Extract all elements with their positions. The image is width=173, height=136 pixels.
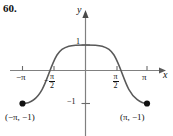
left-endpoint-marker xyxy=(19,100,25,106)
cosine-curve xyxy=(23,45,148,104)
x-tick-label-half-pi: π 2 xyxy=(112,73,119,89)
y-axis-label: y xyxy=(77,4,81,15)
x-axis-ticks xyxy=(23,66,148,71)
x-tick-label-negative-half-pi: − π 2 xyxy=(44,73,55,89)
y-tick-label-negative-one: −1 xyxy=(67,97,76,106)
fraction: π 2 xyxy=(113,73,119,89)
fraction-numerator: π xyxy=(113,73,119,81)
right-endpoint-coordinate-label: (π, −1) xyxy=(120,112,145,122)
fraction-denominator: 2 xyxy=(49,82,55,90)
y-tick-label-one: 1 xyxy=(76,37,80,46)
x-tick-label-negative-pi: −π xyxy=(16,72,26,82)
minus-sign: − xyxy=(44,77,49,85)
y-axis-arrowhead xyxy=(82,10,88,18)
right-endpoint-marker xyxy=(144,100,150,106)
graph-figure: 60. y x −π xyxy=(0,0,173,136)
y-axis xyxy=(82,10,88,136)
left-endpoint-coordinate-label: (−π, −1) xyxy=(5,112,35,122)
x-axis-label: x xyxy=(163,69,167,80)
fraction-denominator: 2 xyxy=(113,82,119,90)
fraction: π 2 xyxy=(49,73,55,89)
x-tick-label-pi: π xyxy=(142,72,147,82)
fraction-numerator: π xyxy=(49,73,55,81)
